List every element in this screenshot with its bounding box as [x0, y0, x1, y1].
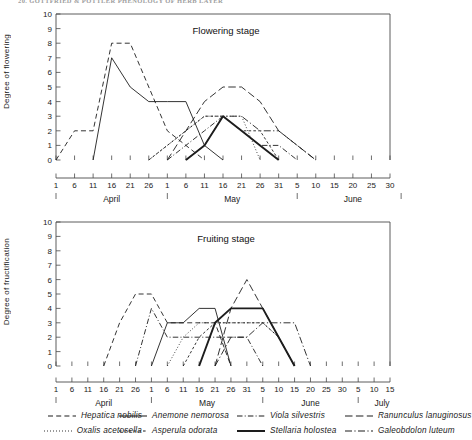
- line-sample-oxalis-acetosella: [43, 426, 73, 436]
- x-tick-label: 6: [72, 181, 77, 190]
- y-tick-label: 3: [48, 319, 53, 328]
- x-tick-label: 11: [179, 385, 188, 394]
- legend-column-4: Ranunculus lanuginosus Galeobdolon luteu…: [344, 408, 468, 438]
- x-tick-label: 31: [242, 385, 251, 394]
- x-tick-label: 25: [322, 385, 331, 394]
- x-tick-label: 1: [165, 181, 170, 190]
- x-tick-label: 11: [89, 181, 98, 190]
- legend-label: Viola silvestris: [270, 411, 325, 420]
- x-tick-label: 21: [115, 385, 124, 394]
- x-month-label: May: [199, 398, 216, 408]
- line-sample-stellaria-holostea: [236, 426, 266, 436]
- x-month-label: June: [344, 194, 363, 204]
- y-tick-label: 8: [48, 39, 53, 48]
- x-tick-label: 21: [211, 385, 220, 394]
- x-tick-label: 25: [367, 181, 376, 190]
- y-tick-label: 8: [48, 247, 53, 256]
- y-tick-label: 7: [48, 261, 53, 270]
- x-tick-label: 20: [306, 385, 315, 394]
- y-tick-label: 0: [48, 156, 53, 165]
- y-tick-label: 7: [48, 54, 53, 63]
- legend: Hepatica nobilis Oxalis acetosella Anemo…: [0, 408, 466, 440]
- line-sample-asperula-odorata: [118, 426, 148, 436]
- line-sample-anemone-nemorosa: [118, 411, 148, 421]
- y-tick-label: 1: [48, 141, 53, 150]
- series-line-asperula-odorata: [149, 116, 279, 160]
- legend-label: Galeobdolon luteum: [378, 426, 455, 435]
- x-tick-label: 30: [386, 181, 395, 190]
- fruiting-chart: 0123456789101611162126161116212631510152…: [18, 216, 466, 414]
- x-tick-label: 16: [107, 181, 116, 190]
- x-tick-label: 16: [195, 385, 204, 394]
- x-tick-label: 1: [149, 385, 154, 394]
- bottom-y-axis-label: Degree of fructification: [2, 238, 11, 325]
- x-tick-label: 26: [131, 385, 140, 394]
- y-tick-label: 5: [48, 83, 53, 92]
- x-tick-label: 6: [184, 181, 189, 190]
- y-tick-label: 2: [48, 127, 53, 136]
- x-tick-label: 11: [84, 385, 93, 394]
- x-tick-label: 15: [386, 385, 395, 394]
- x-month-label: July: [374, 398, 390, 408]
- legend-label: Stellaria holostea: [270, 426, 336, 435]
- x-tick-label: 11: [200, 181, 209, 190]
- y-tick-label: 9: [48, 232, 53, 241]
- y-tick-label: 9: [48, 25, 53, 34]
- legend-item: Asperula odorata: [118, 423, 248, 438]
- x-tick-label: 20: [348, 181, 357, 190]
- x-tick-label: 16: [219, 181, 228, 190]
- y-tick-label: 4: [48, 304, 53, 313]
- x-month-label: May: [224, 194, 241, 204]
- series-line-ranunculus-lanuginosus: [167, 87, 315, 160]
- x-tick-label: 10: [311, 181, 320, 190]
- running-head: 20. GOTTFRIED & POTTLER PHENOLOGY OF HER…: [18, 0, 318, 7]
- x-tick-label: 16: [99, 385, 108, 394]
- legend-item: Anemone nemorosa: [118, 408, 248, 423]
- legend-item: Viola silvestris: [236, 408, 356, 423]
- series-line-oxalis-acetosella: [149, 116, 260, 160]
- x-tick-label: 26: [144, 181, 153, 190]
- y-tick-label: 6: [48, 276, 53, 285]
- top-y-axis-label: Degree of flowering: [2, 34, 11, 109]
- y-tick-label: 5: [48, 290, 53, 299]
- fruiting-plot-svg: 0123456789101611162126161116212631510152…: [18, 216, 466, 414]
- y-tick-label: 1: [48, 348, 53, 357]
- y-tick-label: 4: [48, 98, 53, 107]
- chart-title: Fruiting stage: [197, 233, 255, 244]
- x-tick-label: 30: [338, 385, 347, 394]
- series-line-asperula-odorata: [183, 323, 294, 366]
- y-tick-label: 2: [48, 333, 53, 342]
- y-tick-label: 10: [43, 218, 52, 227]
- legend-label: Anemone nemorosa: [152, 411, 229, 420]
- line-sample-hepatica-nobilis: [47, 411, 77, 421]
- x-tick-label: 26: [226, 385, 235, 394]
- x-month-label: April: [103, 194, 120, 204]
- legend-column-2: Anemone nemorosa Asperula odorata: [118, 408, 248, 438]
- y-tick-label: 0: [48, 362, 53, 371]
- legend-label: Asperula odorata: [152, 426, 218, 435]
- x-month-label: April: [95, 398, 112, 408]
- legend-column-3: Viola silvestris Stellaria holostea: [236, 408, 356, 438]
- legend-item: Galeobdolon luteum: [344, 423, 468, 438]
- x-tick-label: 21: [237, 181, 246, 190]
- x-tick-label: 6: [70, 385, 75, 394]
- line-sample-viola-silvestris: [236, 411, 266, 421]
- x-month-label: June: [301, 398, 320, 408]
- x-tick-label: 1: [54, 181, 59, 190]
- chart-title: Flowering stage: [192, 25, 259, 36]
- x-tick-label: 6: [165, 385, 170, 394]
- x-tick-label: 1: [54, 385, 59, 394]
- line-sample-ranunculus-lanuginosus: [344, 411, 374, 421]
- x-tick-label: 26: [256, 181, 265, 190]
- flowering-chart: 0123456789101611162126161116212631510152…: [18, 8, 466, 208]
- x-tick-label: 10: [274, 385, 283, 394]
- x-tick-label: 15: [290, 385, 299, 394]
- y-tick-label: 6: [48, 68, 53, 77]
- x-tick-label: 31: [274, 181, 283, 190]
- legend-item: Ranunculus lanuginosus: [344, 408, 468, 423]
- x-tick-label: 10: [370, 385, 379, 394]
- line-sample-galeobdolon-luteum: [344, 426, 374, 436]
- x-tick-label: 5: [261, 385, 266, 394]
- legend-item: Stellaria holostea: [236, 423, 356, 438]
